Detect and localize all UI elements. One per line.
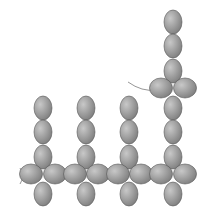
column-4-bead-1 (164, 10, 182, 34)
column-4-cross-left-bead (150, 164, 173, 184)
column-4-bead-5 (164, 120, 182, 144)
column-1-bead-2 (34, 120, 52, 144)
column-4-upper-cross-left-bead (150, 78, 173, 98)
beading-diagram (0, 0, 211, 220)
column-3-bead-2 (120, 120, 138, 144)
column-2-bead-1 (77, 96, 95, 120)
column-2-cross-right-bead (87, 164, 110, 184)
beads-layer (20, 10, 197, 206)
column-1-cross-right-bead (44, 164, 67, 184)
column-3-cross-bottom-bead (120, 182, 138, 206)
column-4-upper-cross-right-bead (174, 78, 197, 98)
column-4-cross-bottom-bead (164, 182, 182, 206)
column-3-cross-right-bead (130, 164, 153, 184)
column-2-cross-bottom-bead (77, 182, 95, 206)
column-1-bead-1 (34, 96, 52, 120)
column-3-cross-left-bead (107, 164, 130, 184)
column-2-cross-left-bead (64, 164, 87, 184)
column-1-cross-bottom-bead (34, 182, 52, 206)
column-2-bead-2 (77, 120, 95, 144)
column-1-cross-left-bead (20, 164, 43, 184)
column-3-bead-1 (120, 96, 138, 120)
column-4-bead-2 (164, 34, 182, 58)
column-4-cross-right-bead (174, 164, 197, 184)
column-4-bead-4 (164, 96, 182, 120)
